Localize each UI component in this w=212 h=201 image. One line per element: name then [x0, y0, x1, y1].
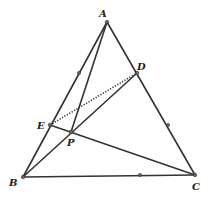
triangle-diagram: A B C D E P — [0, 0, 212, 201]
point-P — [69, 130, 73, 134]
midpoint-AB-marker — [77, 71, 80, 74]
point-C — [193, 173, 197, 177]
label-B: B — [8, 177, 17, 188]
label-P: P — [66, 137, 75, 148]
label-D: D — [136, 61, 146, 72]
segment-AC — [107, 22, 195, 175]
segment-ED-dotted — [50, 73, 137, 125]
midpoint-AC-marker — [166, 123, 169, 126]
point-A — [105, 20, 109, 24]
label-C: C — [192, 181, 200, 192]
midpoint-BC-marker — [138, 173, 141, 176]
label-E: E — [36, 120, 45, 131]
point-E — [48, 123, 52, 127]
point-B — [21, 175, 25, 179]
segment-BC — [23, 175, 195, 177]
label-A: A — [98, 8, 107, 19]
segment-AB — [23, 22, 107, 177]
